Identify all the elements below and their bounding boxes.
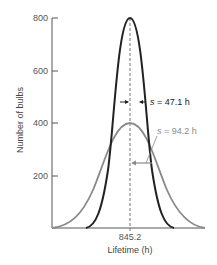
y-tick-label-600: 600 (33, 66, 48, 76)
y-tick-label-800: 800 (33, 13, 48, 23)
y-tick-label-200: 200 (33, 171, 48, 181)
x-mean-label: 845.2 (119, 232, 142, 242)
wide-distribution-curve (52, 123, 205, 228)
narrow-width-annotation (120, 100, 146, 104)
wide-width-annotation (131, 136, 157, 166)
y-tick-label-400: 400 (33, 118, 48, 128)
normal-distribution-chart: 800 600 400 200 Number of bulbs s = 47.1… (0, 0, 217, 265)
y-axis-title: Number of bulbs (15, 86, 25, 153)
narrow-std-label: s = 47.1 h (150, 97, 190, 107)
x-axis-title: Lifetime (h) (107, 245, 152, 255)
wide-std-label: s = 94.2 h (157, 126, 197, 136)
